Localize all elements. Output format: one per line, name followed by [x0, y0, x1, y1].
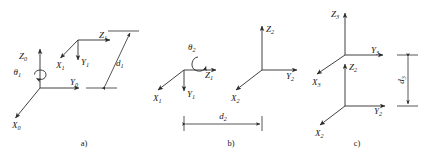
panel-a: Z0 Y0 X0 θ1 Z1 Y1 X1 d1 a) — [11, 30, 139, 148]
axis-label-z1-b: Z1 — [205, 70, 213, 81]
axis-label-y1-b: Y1 — [187, 89, 195, 100]
axis-label-z3-c: Z3 — [331, 9, 339, 20]
axis-label-x1-b: X1 — [152, 93, 162, 104]
panel-caption-a: a) — [81, 138, 88, 148]
dimension-label-d3: d3 — [396, 76, 407, 84]
panel-caption-c: c) — [354, 138, 361, 148]
axis-label-x0: X0 — [11, 120, 22, 131]
axis-label-y2-b: Y2 — [286, 71, 294, 82]
rotation-theta2-arc — [192, 57, 206, 71]
axis-label-x2-b: X2 — [230, 93, 240, 104]
axis-x1-line — [61, 40, 79, 58]
axis-label-x1-a: X1 — [55, 60, 65, 71]
panel-c: Z2 Y2 X2 Z3 Y3 X3 d3 c) — [311, 9, 418, 148]
axis-x3-line-c — [317, 55, 345, 74]
axis-label-x3-c: X3 — [311, 77, 321, 88]
coordinate-frame-figure: Z0 Y0 X0 θ1 Z1 Y1 X1 d1 a) — [0, 0, 423, 165]
axis-label-y3-c: Y3 — [371, 45, 379, 56]
axis-label-y2-c: Y2 — [374, 106, 382, 117]
axis-label-y0: Y0 — [70, 77, 79, 88]
dimension-label-d2: d2 — [219, 111, 227, 122]
axis-label-z0: Z0 — [19, 51, 28, 62]
rotation-label-theta1: θ1 — [13, 67, 21, 78]
axis-x1-line-b — [158, 70, 184, 90]
panel-b: θ2 Z1 Y1 X1 Z2 Y2 X2 d2 b) — [152, 24, 297, 148]
panel-caption-b: b) — [227, 138, 234, 148]
axis-x2-line-c — [320, 106, 345, 125]
dimension-label-d1: d1 — [116, 58, 124, 69]
axis-label-z1-a: Z1 — [99, 30, 107, 41]
rotation-label-theta2: θ2 — [188, 42, 196, 53]
axis-x2-line-b — [236, 70, 262, 90]
axis-label-z2-c: Z2 — [349, 62, 357, 73]
axis-x0-line — [16, 88, 41, 118]
figure-canvas: Z0 Y0 X0 θ1 Z1 Y1 X1 d1 a) — [0, 0, 423, 165]
axis-label-y1-a: Y1 — [81, 57, 89, 68]
axis-label-z2-b: Z2 — [266, 24, 274, 35]
axis-label-x2-c: X2 — [314, 128, 324, 139]
